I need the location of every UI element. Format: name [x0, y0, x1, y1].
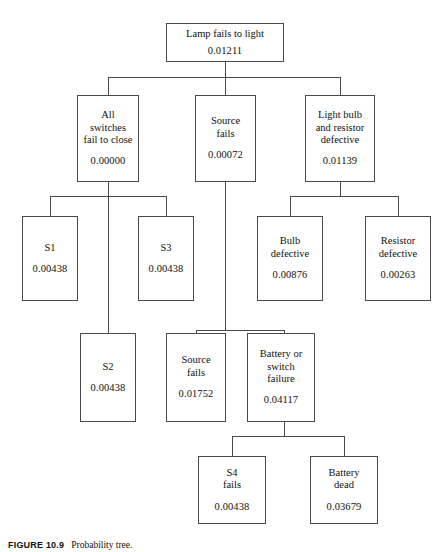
- node-battery-or-switch-failure: Battery or switch failure 0.04117: [247, 333, 315, 422]
- node-value: 0.00438: [91, 382, 126, 394]
- node-lamp-fails-to-light: Lamp fails to light 0.01211: [166, 23, 284, 62]
- node-label: Lamp fails to light: [186, 28, 264, 40]
- node-value: 0.00438: [33, 263, 68, 275]
- node-label: All switches fail to close: [84, 109, 133, 146]
- node-label: Source fails: [211, 115, 240, 140]
- node-label: Light bulb and resistor defective: [316, 109, 365, 146]
- node-value: 0.00438: [149, 263, 184, 275]
- node-s2: S2 0.00438: [80, 333, 136, 422]
- node-value: 0.01752: [179, 388, 214, 400]
- node-value: 0.00000: [91, 155, 126, 167]
- figure-caption: FIGURE 10.9Probability tree.: [8, 540, 438, 552]
- node-all-switches-fail-to-close: All switches fail to close 0.00000: [77, 95, 139, 182]
- figure-caption-id: FIGURE 10.9: [8, 540, 64, 550]
- node-value: 0.03679: [327, 501, 362, 513]
- node-value: 0.04117: [264, 394, 298, 406]
- node-label: S3: [160, 242, 171, 254]
- node-battery-dead: Battery dead 0.03679: [310, 456, 378, 524]
- node-label: S4 fails: [223, 467, 241, 492]
- node-source-fails-upper: Source fails 0.00072: [195, 95, 256, 182]
- node-value: 0.00072: [208, 149, 243, 161]
- node-light-bulb-and-resistor-defective: Light bulb and resistor defective 0.0113…: [305, 95, 375, 182]
- node-value: 0.01139: [323, 155, 357, 167]
- node-label: S2: [102, 361, 113, 373]
- node-resistor-defective: Resistor defective 0.00263: [365, 216, 431, 301]
- node-label: Battery dead: [329, 467, 360, 492]
- node-source-fails-lower: Source fails 0.01752: [166, 333, 226, 422]
- probability-tree-figure: Lamp fails to light 0.01211 All switches…: [0, 0, 444, 552]
- node-label: Resistor defective: [379, 235, 417, 260]
- node-bulb-defective: Bulb defective 0.00876: [257, 216, 323, 301]
- node-label: Source fails: [181, 354, 210, 379]
- node-label: S1: [44, 242, 55, 254]
- node-label: Bulb defective: [271, 235, 309, 260]
- node-value: 0.01211: [208, 45, 242, 57]
- node-s1: S1 0.00438: [22, 216, 78, 301]
- node-value: 0.00263: [381, 269, 416, 281]
- node-s4-fails: S4 fails 0.00438: [198, 456, 266, 524]
- node-s3: S3 0.00438: [138, 216, 194, 301]
- figure-caption-text: Probability tree.: [71, 540, 132, 550]
- node-value: 0.00876: [273, 269, 308, 281]
- node-value: 0.00438: [215, 501, 250, 513]
- node-label: Battery or switch failure: [260, 348, 302, 385]
